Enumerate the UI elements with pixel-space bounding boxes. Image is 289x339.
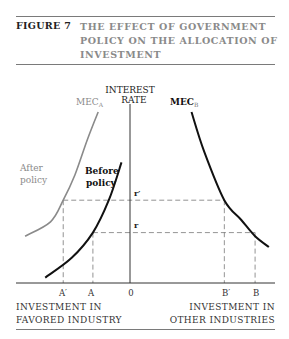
mec-a-label-main: MEC — [76, 97, 99, 107]
origin-label: 0 — [128, 288, 133, 298]
y-axis-label-line2: RATE — [121, 95, 146, 105]
x-label-right-line2: OTHER INDUSTRIES — [170, 315, 275, 325]
x-label-left-line1: INVESTMENT IN — [16, 302, 102, 312]
after-policy-label-line1: After — [19, 163, 44, 173]
x-tick-a: A — [87, 288, 95, 298]
before-policy-label-line1: Before — [85, 166, 119, 176]
x-label-left-line2: FAVORED INDUSTRY — [16, 315, 123, 325]
bottom-rule — [16, 329, 275, 330]
curves — [25, 112, 269, 278]
mec-b-label: MECB — [170, 97, 199, 108]
y-axis-label-line1: INTEREST — [105, 85, 155, 95]
x-tick-b: B — [253, 288, 259, 298]
x-tick-a-prime: A′ — [58, 288, 67, 298]
y-tick-r: r — [134, 220, 139, 230]
after-policy-label-line2: policy — [20, 175, 48, 185]
before-policy-label-line2: policy — [86, 178, 117, 188]
mec-b-curve — [192, 112, 269, 247]
mec-a-label: MECA — [76, 97, 104, 108]
mec-b-label-sub: B — [194, 101, 199, 108]
x-label-right-line1: INVESTMENT IN — [189, 302, 275, 312]
y-tick-r-prime: r′ — [134, 188, 140, 198]
mec-a-label-sub: A — [98, 101, 104, 108]
axes — [16, 104, 275, 283]
guide-lines — [63, 200, 255, 283]
x-tick-b-prime: B′ — [222, 288, 230, 298]
mec-b-label-main: MEC — [170, 97, 194, 107]
chart: INTEREST RATE MECA MECB After policy Bef… — [0, 0, 289, 339]
